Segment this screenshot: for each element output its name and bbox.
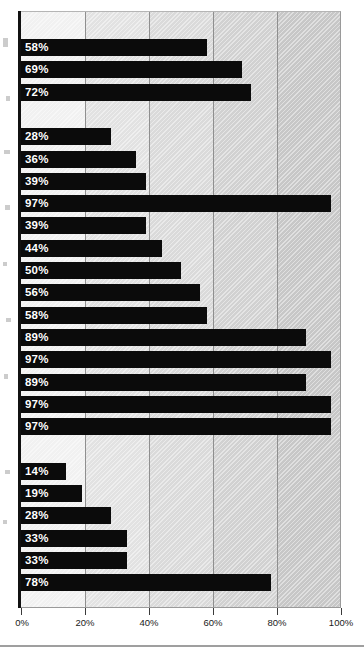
bar-value-label: 97% <box>25 418 49 435</box>
bar-value-label: 36% <box>25 151 49 168</box>
bar-row: 33% <box>21 530 341 547</box>
bar-row: 56% <box>21 284 341 301</box>
edge-artifact-mark <box>5 205 10 210</box>
bar-row: 44% <box>21 240 341 257</box>
bar <box>21 84 251 101</box>
x-tick-label-60%: 60% <box>203 617 222 628</box>
edge-artifact-mark <box>5 470 10 474</box>
bar-row: 50% <box>21 262 341 279</box>
bar <box>21 396 331 413</box>
bar <box>21 329 306 346</box>
bar-row: 39% <box>21 217 341 234</box>
bar-value-label: 89% <box>25 374 49 391</box>
bar-row: 89% <box>21 374 341 391</box>
bar-value-label: 58% <box>25 39 49 56</box>
x-tick-0% <box>21 608 22 615</box>
bar-value-label: 97% <box>25 195 49 212</box>
bar-row: 28% <box>21 128 341 145</box>
bar-value-label: 58% <box>25 307 49 324</box>
bar <box>21 61 242 78</box>
x-tick-60% <box>213 608 214 615</box>
bar-row: 97% <box>21 195 341 212</box>
bar-row: 28% <box>21 507 341 524</box>
bar-row: 14% <box>21 463 341 480</box>
cropped-label-column-artifacts <box>0 0 18 656</box>
footer-divider <box>0 645 364 647</box>
bar-value-label: 97% <box>25 351 49 368</box>
x-axis: 0%20%40%60%80%100% <box>0 608 364 638</box>
bar-value-label: 19% <box>25 485 49 502</box>
edge-artifact-mark <box>3 262 7 266</box>
bar-row: 89% <box>21 329 341 346</box>
x-tick-label-80%: 80% <box>267 617 286 628</box>
bar-row: 97% <box>21 351 341 368</box>
bar-value-label: 39% <box>25 173 49 190</box>
bar-value-label: 50% <box>25 262 49 279</box>
plot-area: 58%69%72%28%36%39%97%39%44%50%56%58%89%9… <box>21 11 341 608</box>
bar-chart: 58%69%72%28%36%39%97%39%44%50%56%58%89%9… <box>0 0 364 656</box>
bar-value-label: 44% <box>25 240 49 257</box>
bar-row: 97% <box>21 396 341 413</box>
edge-artifact-mark <box>6 96 10 101</box>
bar-row: 36% <box>21 151 341 168</box>
bar <box>21 374 306 391</box>
bar-row: 58% <box>21 39 341 56</box>
bar-value-label: 89% <box>25 329 49 346</box>
edge-artifact-mark <box>4 150 10 154</box>
x-tick-label-100%: 100% <box>329 617 353 628</box>
bar-value-label: 56% <box>25 284 49 301</box>
x-tick-100% <box>341 608 342 615</box>
x-tick-20% <box>85 608 86 615</box>
x-tick-label-40%: 40% <box>139 617 158 628</box>
bar <box>21 574 271 591</box>
edge-artifact-mark <box>4 374 8 379</box>
bar-row: 19% <box>21 485 341 502</box>
bar-value-label: 28% <box>25 128 49 145</box>
bar <box>21 195 331 212</box>
bar-value-label: 69% <box>25 61 49 78</box>
x-tick-80% <box>277 608 278 615</box>
bar-value-label: 72% <box>25 84 49 101</box>
x-tick-label-0%: 0% <box>15 617 29 628</box>
bar <box>21 351 331 368</box>
bar-row: 78% <box>21 574 341 591</box>
edge-artifact-mark <box>3 520 7 524</box>
edge-artifact-mark <box>6 318 11 322</box>
bar-value-label: 39% <box>25 217 49 234</box>
bar-row: 97% <box>21 418 341 435</box>
bar-row: 69% <box>21 61 341 78</box>
bar-row: 33% <box>21 552 341 569</box>
x-tick-label-20%: 20% <box>75 617 94 628</box>
bar-row: 58% <box>21 307 341 324</box>
bar-value-label: 78% <box>25 574 49 591</box>
bar-row: 72% <box>21 84 341 101</box>
bar <box>21 418 331 435</box>
x-tick-40% <box>149 608 150 615</box>
bar-value-label: 33% <box>25 530 49 547</box>
bar-value-label: 33% <box>25 552 49 569</box>
bar-row: 39% <box>21 173 341 190</box>
bar-series: 58%69%72%28%36%39%97%39%44%50%56%58%89%9… <box>21 11 341 608</box>
bar-value-label: 14% <box>25 463 49 480</box>
bar-value-label: 28% <box>25 507 49 524</box>
bar-value-label: 97% <box>25 396 49 413</box>
edge-artifact-mark <box>3 38 8 47</box>
